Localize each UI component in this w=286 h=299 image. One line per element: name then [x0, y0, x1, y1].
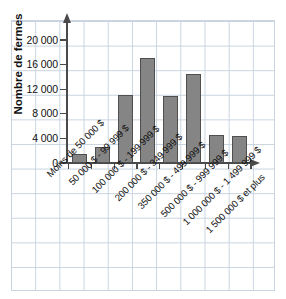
y-axis-arrow-icon [63, 13, 71, 23]
y-tick [60, 64, 66, 65]
y-tick-label: 16 000 [26, 59, 58, 70]
plot-area: Nombre de fermes 04 0008 00012 00016 000… [0, 0, 286, 299]
y-axis-title: Nombre de fermes [12, 4, 24, 124]
y-tick [60, 138, 66, 139]
y-tick-label: 4 000 [32, 133, 58, 144]
x-tick [228, 164, 229, 169]
y-tick-label: 20 000 [26, 35, 58, 46]
x-axis-category-label: 1 500 000 $ et plus [204, 172, 266, 234]
y-tick [60, 89, 66, 90]
x-tick [136, 164, 137, 169]
y-tick [60, 39, 66, 40]
y-axis-line [66, 22, 68, 164]
y-tick-label: 8 000 [32, 108, 58, 119]
y-tick-label: 12 000 [26, 84, 58, 95]
x-tick [159, 164, 160, 169]
x-tick [68, 164, 69, 169]
bar-chart: Nombre de fermes 04 0008 00012 00016 000… [0, 0, 286, 299]
y-tick [60, 113, 66, 114]
